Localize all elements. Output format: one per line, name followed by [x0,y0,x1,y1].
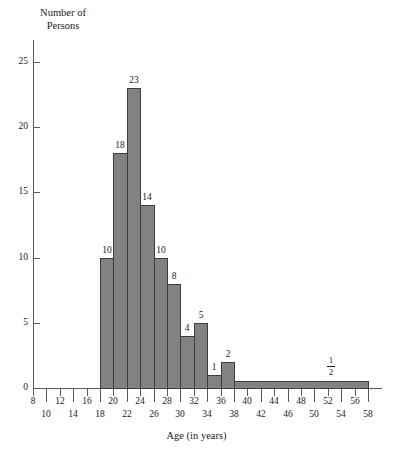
histogram-bar [100,258,114,389]
x-axis-tick-label: 8 [22,396,44,406]
x-axis-tick [288,389,289,402]
x-axis-tick [127,389,128,402]
x-axis-tick-label: 52 [317,396,339,406]
x-axis-tick [234,389,235,402]
histogram-bar-value-label: 2 [216,349,240,359]
x-axis-tick-label: 16 [76,396,98,406]
histogram-bar-value-label: 8 [162,271,186,281]
x-axis-tick [368,389,369,402]
y-axis-tick [34,127,40,128]
x-axis-tick-label: 46 [277,409,299,419]
x-axis-tick [140,389,141,396]
y-axis-tick-label: 0 [2,382,28,392]
histogram-bar [140,205,155,389]
x-axis-tick-label: 54 [330,409,352,419]
x-axis-tick [314,389,315,402]
x-axis-tick [46,389,47,402]
x-axis-tick-label: 26 [143,409,165,419]
x-axis-tick [60,389,61,396]
x-axis-tick-label: 14 [62,409,84,419]
x-axis-tick [301,389,302,396]
x-axis-tick [261,389,262,402]
histogram-bar-value-label: 10 [149,245,173,255]
x-axis-title: Age (in years) [0,430,393,441]
x-axis-tick [100,389,101,402]
x-axis-tick-label: 42 [250,409,272,419]
histogram-bar-value-label: 5 [189,310,213,320]
x-axis-tick [194,389,195,396]
x-axis-tick [33,389,34,396]
x-axis-tick-label: 10 [35,409,57,419]
x-axis-tick-label: 58 [357,409,379,419]
x-axis-tick [355,389,356,396]
x-axis-tick [247,389,248,396]
x-axis-tick-label: 12 [49,396,71,406]
histogram-bar [221,362,235,389]
x-axis-tick [167,389,168,396]
y-axis-tick-label: 25 [2,56,28,66]
x-axis-tick-label: 36 [210,396,232,406]
x-axis-tick [274,389,275,396]
histogram-bar-value-label: 14 [135,192,159,202]
y-axis-tick [34,323,40,324]
x-axis-tick [180,389,181,402]
histogram-bar [167,284,181,389]
x-axis-tick [341,389,342,402]
x-axis-tick-label: 48 [290,396,312,406]
y-axis-tick-label: 5 [2,317,28,327]
y-axis-tick-label: 20 [2,121,28,131]
y-axis-tick [34,62,40,63]
histogram-bar [113,153,128,389]
x-axis-tick-label: 24 [129,396,151,406]
y-axis-tick [34,258,40,259]
y-axis-tick-label: 15 [2,186,28,196]
x-axis-tick-label: 28 [156,396,178,406]
x-axis-tick [221,389,222,396]
histogram-chart: Number of Persons 0510152025810121416182… [0,0,393,456]
x-axis-tick [207,389,208,402]
histogram-bar [234,381,369,389]
x-axis-tick-label: 38 [223,409,245,419]
x-axis-tick-label: 22 [116,409,138,419]
x-axis-tick-label: 44 [263,396,285,406]
x-axis-tick-label: 30 [169,409,191,419]
y-axis-tick [34,192,40,193]
histogram-bar [127,88,141,389]
histogram-bar-value-label: 23 [122,75,146,85]
histogram-bar [194,323,208,389]
x-axis-tick-label: 56 [344,396,366,406]
fraction-numerator: 1 [322,356,340,365]
x-axis-tick-label: 34 [196,409,218,419]
fraction-denominator: 2 [322,368,340,377]
y-axis-tick-label: 10 [2,252,28,262]
y-axis-line [33,40,34,389]
x-axis-tick [328,389,329,396]
x-axis-tick-label: 40 [236,396,258,406]
plot-area: 0510152025810121416182022242628303234363… [0,0,393,456]
x-axis-tick [154,389,155,402]
x-axis-tick-label: 32 [183,396,205,406]
histogram-bar-value-fraction: 12 [322,356,340,377]
histogram-bar [180,336,195,389]
x-axis-tick [73,389,74,402]
x-axis-tick [113,389,114,396]
histogram-bar [207,375,222,389]
x-axis-tick [87,389,88,396]
x-axis-tick-label: 50 [303,409,325,419]
x-axis-tick-label: 18 [89,409,111,419]
x-axis-tick-label: 20 [102,396,124,406]
